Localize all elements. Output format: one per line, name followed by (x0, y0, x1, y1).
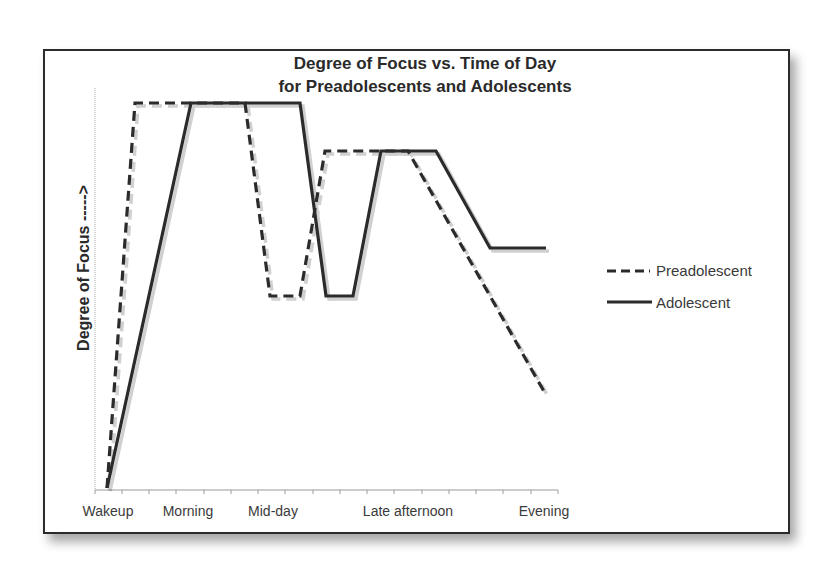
x-tick-late-afternoon: Late afternoon (363, 503, 453, 519)
chart-title: Degree of Focus vs. Time of Day (294, 54, 557, 73)
legend: Preadolescent Adolescent (607, 262, 753, 311)
x-tick-morning: Morning (163, 503, 214, 519)
x-axis-ticks (95, 490, 558, 494)
chart-subtitle: for Preadolescents and Adolescents (278, 77, 571, 96)
x-tick-midday: Mid-day (248, 503, 298, 519)
chart-canvas: Degree of Focus vs. Time of Day for Prea… (0, 0, 830, 570)
x-tick-evening: Evening (519, 503, 570, 519)
legend-label-preadolescent: Preadolescent (656, 262, 753, 279)
y-axis-label: Degree of Focus -----> (75, 185, 92, 351)
adolescent-line (107, 103, 546, 488)
legend-label-adolescent: Adolescent (656, 294, 731, 311)
x-tick-wakeup: Wakeup (83, 503, 134, 519)
series-shadows (110, 106, 549, 491)
adolescent-shadow (110, 106, 549, 491)
